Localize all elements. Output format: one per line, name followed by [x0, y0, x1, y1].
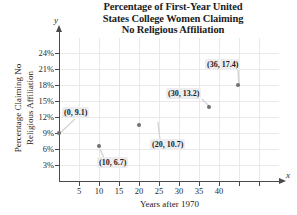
gridline-vertical: [139, 38, 140, 181]
x-axis-tick-label: 5: [69, 186, 89, 196]
y-axis-tick: [55, 165, 60, 166]
x-axis-tick-label: 30: [169, 186, 189, 196]
y-axis-title-line-1: Percentage Claiming No: [12, 28, 24, 188]
data-point-label-10: (10, 6.7): [97, 157, 128, 168]
data-point-label-20: (20, 10.7): [150, 139, 185, 150]
gridline-horizontal: [59, 85, 279, 86]
y-axis-tick: [55, 69, 60, 70]
y-axis-title-line-2: Religious Affiliation: [24, 28, 36, 188]
y-axis-letter: y: [54, 15, 58, 25]
x-axis-tick-label: 40: [209, 186, 229, 196]
y-axis-tick: [55, 53, 60, 54]
gridline-horizontal: [59, 165, 279, 166]
x-axis-tick-label: 25: [149, 186, 169, 196]
data-point-label-36: (36, 17.4): [205, 59, 240, 70]
x-axis-letter: x: [286, 170, 290, 180]
data-point-marker: [236, 83, 240, 87]
gridline-vertical: [259, 38, 260, 181]
plot-area: y x 3% 6% 9% 12% 15% 18% 21% 24%: [0, 0, 297, 215]
y-axis-arrow-icon: [56, 25, 62, 32]
gridline-vertical: [159, 38, 160, 181]
gridline-horizontal: [59, 69, 279, 70]
x-axis-tick-label: 35: [189, 186, 209, 196]
gridline-vertical: [199, 38, 200, 181]
data-point-marker: [207, 105, 211, 109]
y-axis-title: Percentage Claiming No Religious Affilia…: [12, 28, 36, 188]
gridline-horizontal: [59, 117, 279, 118]
data-point-label-0: (0, 9.1): [62, 107, 89, 118]
gridline-horizontal: [59, 101, 279, 102]
x-axis-tick-label: 15: [109, 186, 129, 196]
x-axis-title: Years after 1970: [59, 199, 280, 209]
y-axis-tick: [55, 117, 60, 118]
y-axis-tick: [55, 85, 60, 86]
x-axis-arrow-icon: [279, 178, 286, 184]
data-point-marker: [137, 123, 141, 127]
gridline-horizontal: [59, 133, 279, 134]
data-point-marker: [97, 144, 101, 148]
data-point-label-30: (30, 13.2): [166, 88, 201, 99]
y-axis-tick: [55, 101, 60, 102]
y-axis-tick: [55, 149, 60, 150]
x-axis-line: [59, 181, 280, 182]
x-axis-tick-labels: 5 10 15 20 25 30 35 40: [0, 186, 297, 200]
data-point-marker: [57, 131, 61, 135]
x-axis-tick-label: 20: [129, 186, 149, 196]
chart-figure: Percentage of First-Year United States C…: [0, 0, 297, 215]
gridline-horizontal: [59, 53, 279, 54]
gridline-vertical: [179, 38, 180, 181]
x-axis-tick-label: 10: [89, 186, 109, 196]
